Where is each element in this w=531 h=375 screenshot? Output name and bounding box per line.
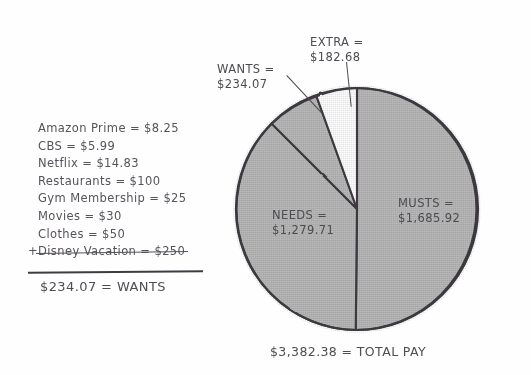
list-item-struck: + Disney Vacation = $250 [38,243,238,261]
expense-text: Amazon Prime = $8.25 [38,121,179,135]
expense-text: CBS = $5.99 [38,139,115,153]
pie-label-extra-value: $182.68 [310,50,363,65]
list-item: Movies = $30 [38,208,238,226]
pie-label-musts-name: MUSTS = [398,196,460,211]
pie-label-needs-value: $1,279.71 [272,223,334,238]
pie-label-wants-name: WANTS = [217,62,275,77]
expense-text: Clothes = $50 [38,227,125,241]
wants-subtotal: $234.07 = WANTS [40,279,166,294]
pie-label-needs-name: NEEDS = [272,208,334,223]
pie-label-extra-name: EXTRA = [310,35,363,50]
list-item: Netflix = $14.83 [38,155,238,173]
list-item: Gym Membership = $25 [38,190,238,208]
expense-text: Movies = $30 [38,209,122,223]
expense-text-crossed-out: Disney Vacation = $250 [38,243,185,261]
pie-label-musts: MUSTS = $1,685.92 [398,196,460,226]
pie-label-needs: NEEDS = $1,279.71 [272,208,334,238]
expense-text: Netflix = $14.83 [38,156,139,170]
list-item: Amazon Prime = $8.25 [38,120,238,138]
pie-label-extra: EXTRA = $182.68 [310,35,363,65]
list-item: Restaurants = $100 [38,173,238,191]
pie-label-wants-value: $234.07 [217,77,275,92]
wants-expense-list: Amazon Prime = $8.25 CBS = $5.99 Netflix… [38,120,238,261]
expense-text: Restaurants = $100 [38,174,160,188]
total-pay-caption: $3,382.38 = TOTAL PAY [270,344,426,359]
expense-text: Gym Membership = $25 [38,191,187,205]
list-item: Clothes = $50 [38,226,238,244]
pie-label-musts-value: $1,685.92 [398,211,460,226]
list-item: CBS = $5.99 [38,138,238,156]
pie-label-wants: WANTS = $234.07 [217,62,275,92]
